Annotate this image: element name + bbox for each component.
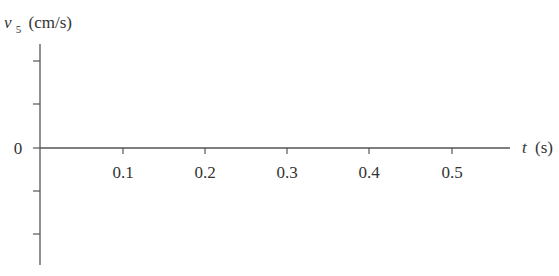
- x-axis-label-var: t: [522, 138, 528, 157]
- velocity-time-axes: 0.1 0.2 0.3 0.4 0.5 0 t (s) v 5 (cm/s): [0, 0, 559, 276]
- x-tick-label: 0.3: [276, 163, 297, 182]
- y-axis-label-subscript: 5: [16, 23, 22, 35]
- x-tick-label: 0.5: [441, 163, 462, 182]
- y-axis-label-var: v: [4, 13, 12, 32]
- x-tick-label: 0.2: [194, 163, 215, 182]
- x-tick-label: 0.1: [112, 163, 133, 182]
- y-zero-label: 0: [14, 139, 23, 158]
- y-axis-label-unit: (cm/s): [29, 13, 72, 32]
- y-axis-label: v 5 (cm/s): [4, 13, 72, 37]
- x-axis-label-unit: (s): [535, 138, 553, 157]
- x-tick-label: 0.4: [358, 163, 380, 182]
- x-axis-label: t (s): [522, 138, 553, 157]
